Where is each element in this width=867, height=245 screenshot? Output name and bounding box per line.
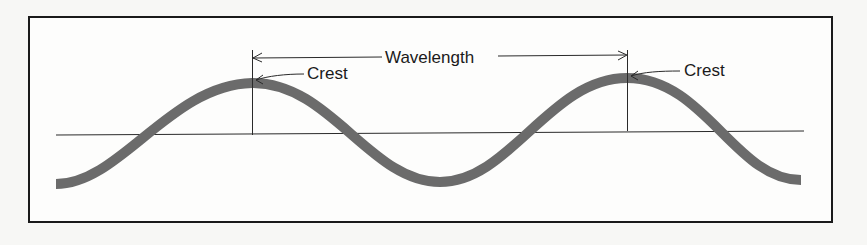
wave: [56, 78, 801, 184]
wavelength-label: Wavelength: [385, 48, 474, 67]
baseline: [56, 131, 804, 135]
wave-diagram: Wavelength Crest Crest: [0, 0, 867, 245]
crest-label-left: Crest: [307, 64, 348, 83]
crest-label-right: Crest: [684, 61, 725, 80]
